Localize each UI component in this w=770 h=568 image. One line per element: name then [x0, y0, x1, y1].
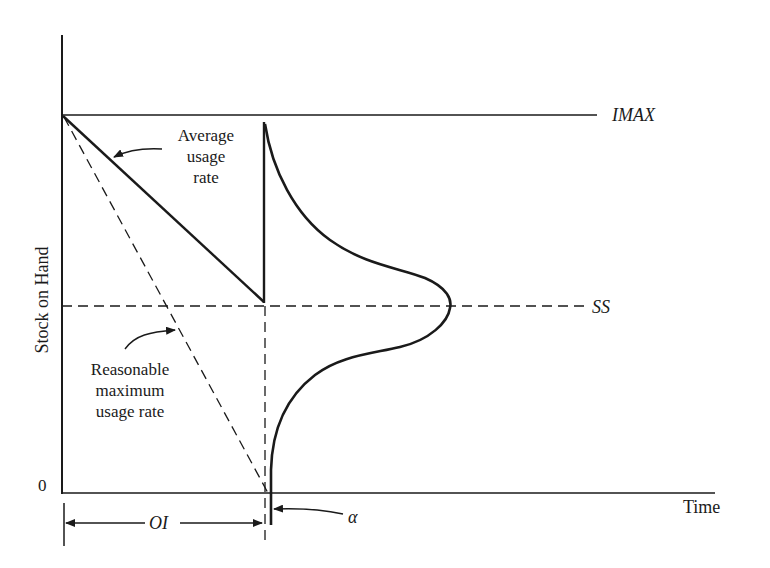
- ss-label: SS: [592, 298, 610, 316]
- alpha-pointer: [274, 509, 343, 514]
- y-axis-label: Stock on Hand: [32, 247, 53, 354]
- x-axis-label: Time: [683, 498, 720, 516]
- avg-usage-pointer: [114, 149, 162, 157]
- imax-label: IMAX: [612, 106, 655, 124]
- max-usage-label-2: maximum: [75, 382, 185, 400]
- avg-usage-label-2: usage: [166, 148, 246, 166]
- inventory-diagram: Stock on Hand 0 Time IMAX SS Average usa…: [0, 0, 770, 568]
- avg-usage-label-3: rate: [166, 169, 246, 187]
- alpha-label: α: [348, 508, 357, 526]
- distribution-curve: [265, 124, 450, 525]
- max-usage-label-3: usage rate: [75, 403, 185, 421]
- max-usage-label-1: Reasonable: [75, 361, 185, 379]
- avg-usage-label-1: Average: [166, 127, 246, 145]
- max-usage-pointer: [125, 330, 175, 349]
- origin-label: 0: [38, 477, 47, 495]
- oi-label: OI: [149, 514, 168, 532]
- diagram-canvas: [0, 0, 770, 568]
